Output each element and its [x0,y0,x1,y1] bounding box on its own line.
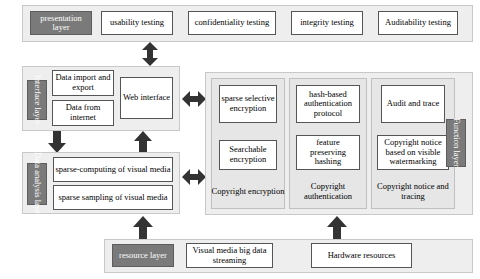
connector-resource-analysis-up [133,216,153,239]
hash-based-auth-protocol-box[interactable]: hash-based authentication protocol [296,85,360,123]
hash-based-auth-protocol-label: hash-based authentication protocol [298,90,358,119]
sparse-computing-box[interactable]: sparse-computing of visual media [53,157,173,182]
architecture-diagram: presentation layer usability testing con… [0,0,480,279]
hardware-resources-box[interactable]: Hardware resources [311,243,412,268]
visual-media-streaming-label: Visual media big data streaming [188,246,271,265]
connector-interface-function [182,89,206,109]
usability-testing-box[interactable]: usability testing [101,11,173,35]
connector-resource-function-up [327,216,347,239]
interface-layer-tag-label: Interface layer [32,75,41,124]
presentation-layer-tag-label: presentation layer [31,14,91,33]
data-analysis-layer-tag-label: Data analysis layer [32,152,41,217]
auditability-testing-label: Auditability testing [385,18,451,28]
confidentiality-testing-label: confidentiality testing [195,18,269,28]
audit-and-trace-box[interactable]: Audit and trace [381,85,445,123]
resource-layer-tag: resource layer [112,244,174,267]
copyright-notice-tracing-caption: Copyright notice and tracing [371,178,455,205]
copyright-notice-watermarking-box[interactable]: Copyright notice based on visible waterm… [377,135,449,170]
sparse-sampling-box[interactable]: sparse sampling of visual media [53,185,173,210]
data-from-internet-box[interactable]: Data from internet [52,100,114,126]
function-layer-tag-label: Function layer [451,118,460,167]
copyright-encryption-caption: Copyright encryption [211,178,285,205]
web-interface-box[interactable]: Web interface [120,77,173,119]
web-interface-label: Web interface [123,93,170,103]
audit-and-trace-label: Audit and trace [387,99,439,109]
connector-presentation-interface [140,42,160,66]
data-import-export-label: Data import and export [54,73,112,92]
confidentiality-testing-box[interactable]: confidentiality testing [188,11,276,35]
searchable-encryption-label: Searchable encryption [221,145,275,164]
copyright-authentication-caption-label: Copyright authentication [289,182,367,201]
interface-layer-tag: Interface layer [27,80,47,120]
copyright-encryption-caption-label: Copyright encryption [212,187,285,197]
data-analysis-layer-tag: Data analysis layer [27,163,47,205]
sparse-sampling-label: sparse sampling of visual media [58,193,167,203]
sparse-selective-encryption-box[interactable]: sparse selective encryption [219,85,277,123]
hardware-resources-label: Hardware resources [328,251,396,261]
data-import-export-box[interactable]: Data import and export [52,70,114,96]
connector-analysis-function [182,167,206,187]
sparse-computing-label: sparse-computing of visual media [56,165,171,175]
visual-media-streaming-box[interactable]: Visual media big data streaming [186,243,273,268]
presentation-layer-tag: presentation layer [30,11,92,35]
feature-preserving-hashing-label: feature preserving hashing [298,138,358,167]
connector-analysis-interface-up [134,131,152,153]
function-layer-tag: Function layer [446,119,466,167]
copyright-notice-watermarking-label: Copyright notice based on visible waterm… [379,138,447,167]
data-from-internet-label: Data from internet [54,103,112,122]
usability-testing-label: usability testing [110,18,164,28]
integrity-testing-label: integrity testing [300,18,354,28]
copyright-notice-tracing-caption-label: Copyright notice and tracing [371,182,455,201]
sparse-selective-encryption-label: sparse selective encryption [221,94,275,113]
searchable-encryption-box[interactable]: Searchable encryption [219,140,277,170]
copyright-authentication-caption: Copyright authentication [289,178,367,205]
resource-layer-tag-label: resource layer [119,251,167,260]
auditability-testing-box[interactable]: Auditability testing [378,11,458,35]
connector-interface-analysis-down [48,131,66,153]
feature-preserving-hashing-box[interactable]: feature preserving hashing [296,135,360,170]
integrity-testing-box[interactable]: integrity testing [291,11,363,35]
